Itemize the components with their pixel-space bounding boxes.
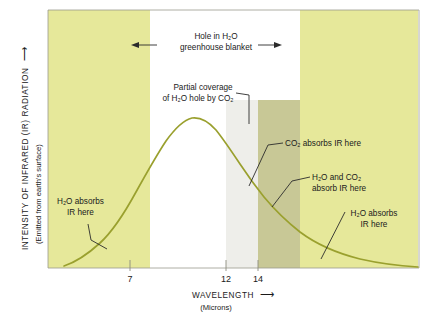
- annotation-hole-line2: greenhouse blanket: [180, 43, 253, 52]
- annotation-partial-line2: of H₂O hole by CO₂: [163, 94, 234, 103]
- x-tick-label-7: 7: [127, 274, 132, 284]
- x-axis-title: WAVELENGTH ⟶: [192, 289, 274, 300]
- annotation-hole-line1: Hole in H₂O: [194, 32, 237, 41]
- y-axis-label-group: INTENSITY OF INFRARED (IR) RADIATION ⟶ (…: [19, 46, 43, 250]
- annotation-co2-line1: CO₂ absorbs IR here: [285, 139, 361, 148]
- annotation-h2o-left-line2: IR here: [67, 208, 94, 217]
- band-h2o-co2-overlap: [258, 100, 300, 268]
- annotation-h2o-right-line2: IR here: [361, 220, 388, 229]
- band-h2o-left: [48, 10, 150, 268]
- annotation-h2o-right-line1: H₂O absorbs: [351, 209, 398, 218]
- ir-radiation-chart-figure: INTENSITY OF INFRARED (IR) RADIATION ⟶ (…: [0, 0, 434, 319]
- annotation-h2o-co2-line1: H₂O and CO₂: [312, 173, 361, 182]
- annotation-partial-line1: Partial coverage: [173, 83, 233, 92]
- x-tick-label-12: 12: [221, 274, 231, 284]
- y-axis-title: INTENSITY OF INFRARED (IR) RADIATION ⟶: [19, 46, 30, 250]
- x-axis-subtitle: (Microns): [200, 303, 232, 312]
- chart-canvas: INTENSITY OF INFRARED (IR) RADIATION ⟶ (…: [0, 0, 434, 319]
- x-tick-label-14: 14: [253, 274, 263, 284]
- x-axis-label-group: WAVELENGTH ⟶ (Microns): [192, 289, 274, 312]
- annotation-h2o-co2-line2: absorb IR here: [312, 184, 367, 193]
- y-axis-subtitle: (Emitted from earth's surface): [34, 144, 43, 244]
- annotation-h2o-left-line1: H₂O absorbs: [57, 197, 104, 206]
